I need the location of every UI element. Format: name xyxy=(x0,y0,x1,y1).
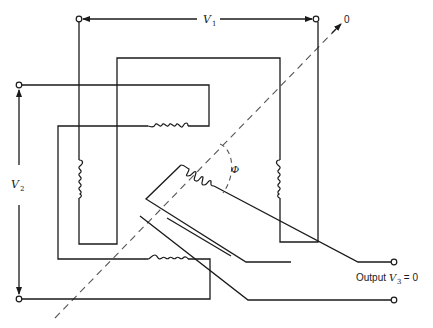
label-v1: V xyxy=(203,13,212,26)
terminal-v1-left xyxy=(76,16,82,22)
diagram-canvas: V 1 V 2 Φ 0 Output V 3 = 0 xyxy=(0,0,433,328)
terminal-v2-bottom xyxy=(16,296,22,302)
terminal-v2-top xyxy=(16,82,22,88)
v1-terminals xyxy=(76,16,319,22)
label-zero: 0 xyxy=(344,14,350,25)
stator-circuit-v2 xyxy=(22,85,210,299)
terminal-output-top xyxy=(391,259,397,265)
rotor-coil-icon xyxy=(181,165,214,186)
label-v2: V xyxy=(11,178,20,191)
label-output: Output xyxy=(356,272,386,283)
label-output-prefix: Output xyxy=(356,272,386,283)
stator-circuit-v1 xyxy=(79,22,318,244)
reference-axis xyxy=(55,24,341,318)
terminal-output-bottom xyxy=(391,297,397,303)
stator-coil-right-icon xyxy=(276,160,280,198)
label-output-suffix: = 0 xyxy=(401,272,418,283)
stator-coil-bottom-icon xyxy=(148,255,188,259)
terminal-v1-right xyxy=(313,16,319,22)
angle-arc xyxy=(220,144,232,193)
stator-coil-left-icon xyxy=(79,160,83,198)
label-v1-sub: 1 xyxy=(212,20,216,28)
label-v2-sub: 2 xyxy=(20,185,24,193)
label-phi: Φ xyxy=(231,164,239,175)
labels: V 1 V 2 Φ 0 Output V 3 = 0 xyxy=(11,13,418,286)
stator-coil-top-icon xyxy=(148,123,188,127)
